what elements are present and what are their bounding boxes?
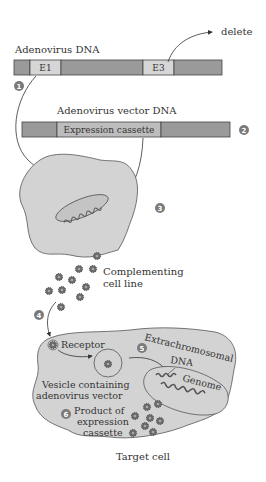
product-label-line1: Product of <box>74 405 126 416</box>
step-1-badge: 1 <box>14 81 24 91</box>
receptor-virus <box>49 341 56 348</box>
product-label-line2: expression <box>77 416 129 427</box>
delete-arrow <box>168 32 212 62</box>
step-6-badge: 6 <box>61 409 71 419</box>
product-label-line3: cassette <box>83 427 123 438</box>
step-2-badge: 2 <box>239 125 249 135</box>
step-3-badge: 3 <box>155 203 165 213</box>
step-4-badge: 4 <box>34 310 44 320</box>
svg-text:1: 1 <box>17 83 22 91</box>
delete-label: delete <box>221 26 252 37</box>
e3-label: E3 <box>152 63 165 73</box>
target-cell-caption: Target cell <box>116 451 170 462</box>
step-5-badge: 5 <box>137 343 147 353</box>
virus-to-target-arrow <box>48 302 56 336</box>
virus-particles <box>45 252 100 310</box>
vesicle-label-line1: Vesicle containing <box>41 379 130 390</box>
vesicle-label-line2: adenovirus vector <box>36 390 123 401</box>
svg-text:6: 6 <box>64 411 69 419</box>
adenovirus-dna-label: Adenovirus DNA <box>14 44 100 55</box>
svg-text:2: 2 <box>242 127 247 135</box>
complementing-label-line2: cell line <box>103 278 143 289</box>
svg-text:5: 5 <box>140 345 145 353</box>
adenovirus-dna-bar: E1 E3 <box>14 60 222 75</box>
adenovirus-vector-diagram: Adenovirus DNA E1 E3 delete 1 Adenovirus… <box>0 0 266 482</box>
vector-dna-label: Adenovirus vector DNA <box>56 105 177 116</box>
vector-dna-bar: Expression cassette <box>22 122 230 137</box>
e1-label: E1 <box>39 63 51 73</box>
receptor-label: Receptor <box>61 339 105 350</box>
complementing-label-line1: Complementing <box>103 266 184 277</box>
svg-text:3: 3 <box>158 205 163 213</box>
svg-text:4: 4 <box>37 312 42 320</box>
expression-cassette-label: Expression cassette <box>64 125 155 135</box>
